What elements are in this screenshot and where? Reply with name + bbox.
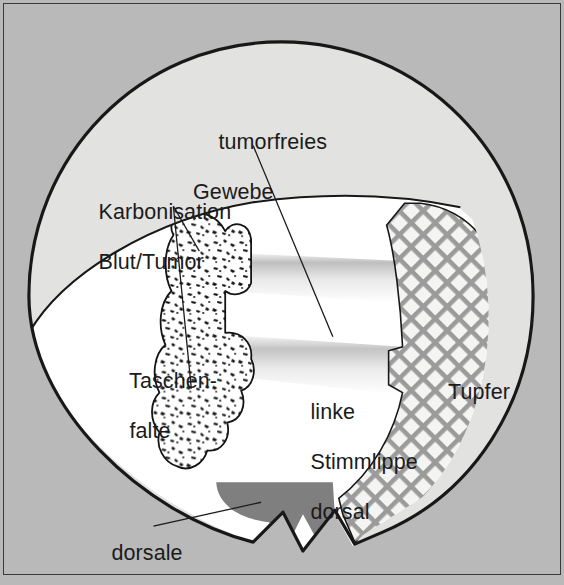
label-karbonisation-line2: Blut/Tumor xyxy=(98,250,203,274)
label-tumorfreies-gewebe-line1: tumorfreies xyxy=(218,130,327,154)
label-dorsale-inzision-line1: dorsale xyxy=(111,541,182,565)
label-tupfer-line1: Tupfer xyxy=(448,380,510,404)
figure-frame: tumorfreies Gewebe Karbonisation Blut/Tu… xyxy=(3,3,561,575)
label-karbonisation-line1: Karbonisation xyxy=(98,200,231,224)
label-taschenfalte-line1: Taschen- xyxy=(129,369,217,393)
label-dorsale-inzision: dorsale Inzision xyxy=(75,516,185,575)
label-tupfer: Tupfer xyxy=(412,355,510,430)
figure-container: tumorfreies Gewebe Karbonisation Blut/Tu… xyxy=(0,0,564,585)
label-karbonisation: Karbonisation Blut/Tumor xyxy=(62,175,231,300)
label-linke-stimmlippe: linke Stimmlippe dorsal xyxy=(274,375,418,550)
label-taschenfalte-line2: falte xyxy=(129,419,170,443)
label-taschenfalte: Taschen- falte xyxy=(93,344,217,469)
label-linke-stimmlippe-line3: dorsal xyxy=(310,500,369,524)
label-linke-stimmlippe-line1: linke xyxy=(310,400,355,424)
label-linke-stimmlippe-line2: Stimmlippe xyxy=(310,450,417,474)
